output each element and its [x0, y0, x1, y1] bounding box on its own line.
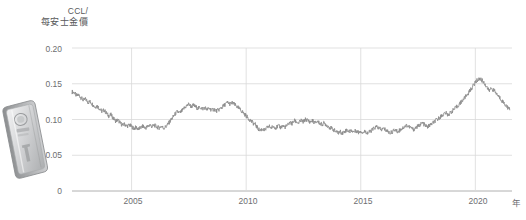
gold-ingot-bar-icon — [2, 99, 48, 181]
plot-area — [0, 0, 526, 220]
gridlines — [72, 48, 512, 191]
series-lines — [72, 78, 510, 135]
gold-price-chart: CCL/ 每安士金價 0.20 0.15 0.10 0.05 0 2005 20… — [0, 0, 526, 220]
series-line-0 — [72, 78, 510, 135]
